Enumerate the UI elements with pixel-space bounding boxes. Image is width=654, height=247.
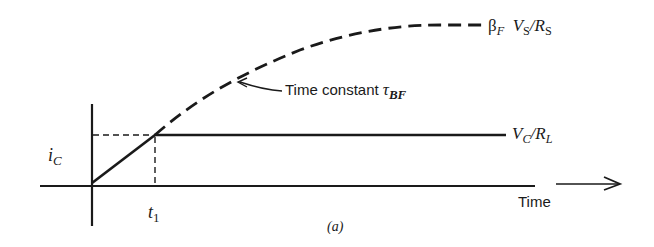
ramp-line [92,135,155,183]
y-axis-label: iC [48,146,62,164]
saturation-label: βF VS/RS [488,17,552,34]
rs-subscript: S [545,24,552,38]
figure-caption: (a) [327,220,343,234]
tau-subscript: BF [389,87,406,102]
saturation-curve-dashed [155,25,482,135]
diagram-canvas [0,0,654,247]
t1-tick-label: t1 [148,203,160,221]
x-axis-label: Time [518,194,551,209]
rs-symbol: R [535,16,545,35]
rl-symbol: R [535,124,545,143]
beta-symbol: β [488,16,497,35]
collector-limit-label: VC/RL [512,125,553,142]
time-constant-label: Time constant τBF [285,81,406,98]
rl-subscript: L [546,132,553,146]
t-subscript: 1 [153,210,159,225]
vc-symbol: V [512,124,522,143]
time-constant-text: Time constant [285,81,383,98]
ic-subscript: C [53,153,62,168]
vs-subscript: S [523,24,530,38]
vs-symbol: V [513,16,523,35]
vc-subscript: C [522,132,530,146]
beta-subscript: F [497,24,504,38]
